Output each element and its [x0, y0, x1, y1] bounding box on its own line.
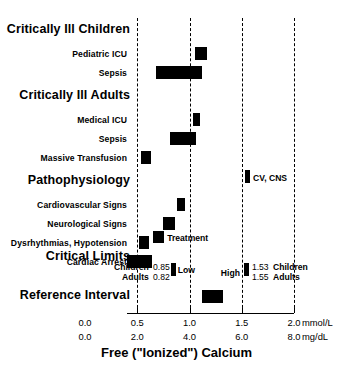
item-label: Dysrhythmias, Hypotension: [0, 238, 127, 248]
x-axis-tick: [294, 308, 295, 313]
x-tick-label: 0.5: [115, 317, 159, 328]
item-label: Medical ICU: [0, 115, 127, 125]
critical-limit-right-name: Adults: [273, 272, 300, 282]
marker-bar-treatment: [153, 231, 164, 243]
x-tick-label: 2.0: [115, 331, 159, 342]
group-label: Critically Ill Children: [0, 22, 130, 36]
critical-limit-right-value: 1.53: [252, 262, 269, 272]
critical-limit-right-value: 1.55: [252, 272, 269, 282]
x-tick-label: 1.5: [220, 317, 264, 328]
x-tick-label: 0.0: [63, 331, 107, 342]
group-label-critical-limits: Critical Limits: [0, 249, 130, 263]
item-label: Cardiovascular Signs: [0, 200, 127, 210]
marker-bar-cv-cns: [245, 170, 250, 183]
axis-unit-label: mg/dL: [302, 331, 328, 342]
x-axis-line: [127, 313, 294, 314]
x-tick-label: 4.0: [168, 331, 212, 342]
range-bar: [195, 47, 208, 60]
x-axis-tick: [242, 308, 243, 313]
item-label: Pediatric ICU: [0, 49, 127, 59]
ionized-calcium-chart: Critically Ill ChildrenPediatric ICUSeps…: [0, 0, 353, 371]
critical-limit-left-value: 0.82: [153, 272, 170, 282]
critical-limit-high-bar: [244, 263, 249, 276]
critical-limit-low-label: Low: [178, 265, 195, 275]
critical-limit-left-value: 0.85: [153, 262, 170, 272]
item-label: Neurological Signs: [0, 219, 127, 229]
gridline-1-5: [242, 18, 243, 313]
x-tick-label: 1.0: [168, 317, 212, 328]
range-bar: [170, 132, 196, 145]
marker-label-treatment: Treatment: [167, 233, 208, 243]
x-tick-label: 6.0: [220, 331, 264, 342]
group-label: Critically Ill Adults: [0, 88, 130, 102]
range-bar: [193, 113, 200, 126]
critical-limit-left-name: Children: [114, 262, 149, 272]
range-bar: [139, 236, 148, 249]
range-bar: [141, 151, 150, 164]
range-bar: [177, 198, 185, 211]
axis-unit-label: mmol/L: [302, 317, 333, 328]
critical-limit-low-bar: [171, 263, 176, 276]
group-label-reference-interval: Reference Interval: [0, 288, 130, 302]
marker-label-cv-cns: CV, CNS: [253, 173, 287, 183]
critical-limit-high-label: High: [221, 268, 240, 278]
item-label: Sepsis: [0, 68, 127, 78]
axis-title: Free ("Ionized") Calcium: [0, 345, 353, 360]
range-bar: [156, 66, 202, 79]
range-bar: [163, 217, 174, 230]
reference-interval-bar: [202, 290, 223, 303]
critical-limit-right-name: Children: [273, 262, 308, 272]
group-label: Pathophysiology: [0, 173, 130, 187]
item-label: Massive Transfusion: [0, 153, 127, 163]
critical-limit-left-name: Adults: [122, 272, 149, 282]
x-axis-tick: [190, 308, 191, 313]
item-label: Sepsis: [0, 134, 127, 144]
x-axis-tick: [137, 308, 138, 313]
x-tick-label: 0.0: [63, 317, 107, 328]
